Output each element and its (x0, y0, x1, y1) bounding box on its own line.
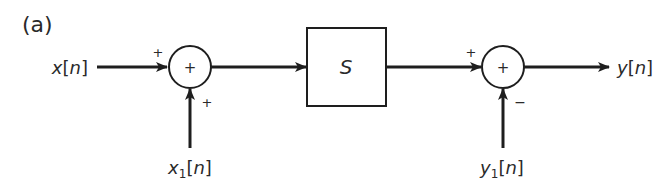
summing-junction-1: + (169, 46, 211, 88)
system-block: S (307, 28, 386, 106)
summer1-bottom-sign: + (202, 95, 213, 110)
summing-junction-2: + (482, 46, 524, 88)
summer1-left-sign: + (153, 45, 164, 60)
panel-label: (a) (22, 12, 53, 37)
summer2-bottom-sign: − (514, 94, 526, 110)
summer1-symbol: + (184, 59, 197, 77)
summer2-symbol: + (497, 59, 510, 77)
system-label: S (340, 55, 353, 79)
output-signal-label: y[n] (616, 57, 653, 78)
input-signal-label: x[n] (51, 57, 88, 78)
aux-input-label: x1[n] (167, 157, 212, 181)
summer2-left-sign: + (466, 45, 477, 60)
block-diagram: (a) x[n] + + + x1[n] S + + − y1[n] y[n] (0, 0, 669, 187)
aux-output-label: y1[n] (479, 157, 524, 181)
